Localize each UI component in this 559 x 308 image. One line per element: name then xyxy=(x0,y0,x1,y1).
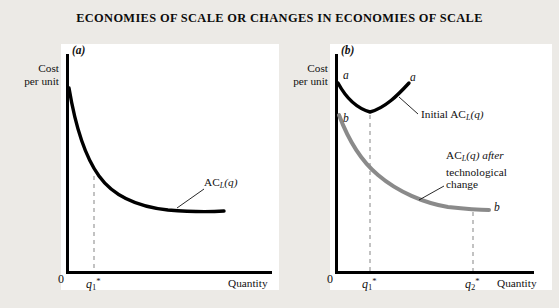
panel-a-x-axis-label: Quantity xyxy=(228,277,268,289)
panel-b-point-label-a-left: a xyxy=(343,69,349,81)
panel-b-tick-q2-sup: * xyxy=(475,276,479,286)
panel-b-y-axis-caption: Cost per unit xyxy=(271,62,328,87)
panel-b-point-label-a-right: a xyxy=(410,71,416,83)
panel-b-curve-label-after-change: ACL(q) after technological change xyxy=(446,149,546,190)
panel-a-y-axis-caption: Cost per unit xyxy=(2,62,59,87)
panel-b-tick-q2: q2* xyxy=(465,276,480,292)
panel-b-point-label-b-right: b xyxy=(494,201,500,213)
panel-b-y-axis-caption-line1: Cost xyxy=(271,62,328,75)
panel-b-leader-line-after-change xyxy=(419,186,444,200)
panel-a-tick-q1: q1* xyxy=(86,276,101,292)
panel-b-leader-line-initial xyxy=(399,97,418,114)
panel-a-curve-label-ac-l: ACL(q) xyxy=(204,176,237,193)
panel-a-y-axis-caption-line1: Cost xyxy=(2,62,59,75)
panel-b-tick-q1-sup: * xyxy=(372,276,376,286)
panel-b-curve-label-after-change-line1: ACL(q) after xyxy=(446,149,546,166)
panel-b-point-label-b-left: b xyxy=(343,112,349,124)
panel-b-curve-label-after-prefix: AC xyxy=(446,149,462,161)
figure-root: ECONOMIES OF SCALE OR CHANGES IN ECONOMI… xyxy=(0,0,559,308)
panel-a-y-axis-caption-line2: per unit xyxy=(2,75,59,88)
panel-b-origin-label: 0 xyxy=(327,272,333,287)
panel-a-curve-label-tail: (q) xyxy=(224,176,237,188)
panel-a-curve-label-prefix: AC xyxy=(204,176,220,188)
panel-a-tick-q1-sup: * xyxy=(96,276,100,286)
panel-a-origin-label: 0 xyxy=(58,272,64,287)
panel-b-curve-label-initial-prefix: Initial AC xyxy=(421,108,466,120)
panel-b-x-axis-label: Quantity xyxy=(497,277,537,289)
panel-b-curve-label-after-tail: (q) after xyxy=(466,149,503,161)
panel-b-curve-label-after-change-line3: change xyxy=(446,178,546,190)
panel-b-curve-label-initial-ac: Initial ACL(q) xyxy=(421,108,484,125)
panel-b-letter: (b) xyxy=(341,44,354,56)
panel-b-tick-q1: q1* xyxy=(362,276,377,292)
panel-b-y-axis-caption-line2: per unit xyxy=(271,75,328,88)
panel-b-curve-label-initial-tail: (q) xyxy=(470,108,483,120)
panel-a-letter: (a) xyxy=(72,44,85,56)
panel-b-curve-label-after-change-line2: technological xyxy=(446,166,546,178)
panel-b-curve-initial-ac xyxy=(338,83,409,112)
